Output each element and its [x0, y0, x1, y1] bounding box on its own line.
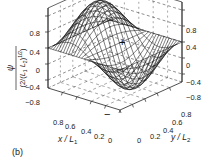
back-grid	[48, 0, 182, 106]
x-tick-0.4: 0.4	[81, 127, 91, 136]
x-tick-0.8: 0.8	[53, 118, 63, 127]
wavefunction-surface	[48, 0, 182, 89]
z-tick-left-neg0.8: −0.8	[25, 98, 40, 107]
plus-annotation: +	[119, 36, 125, 48]
panel-label: (b)	[12, 147, 23, 157]
y-tick-0.8: 0.8	[181, 110, 191, 119]
x-axis-label: x / L1	[57, 134, 78, 145]
z-tick-left-0.8: 0.8	[30, 29, 40, 38]
y-tick-0.6: 0.6	[172, 118, 182, 127]
z-tick-right-neg0.4: −0.4	[186, 78, 201, 87]
y-tick-0.2: 0.2	[150, 132, 160, 141]
z-axis-label-denominator: (2/(L1 L2)1/2)	[17, 48, 28, 88]
z-tick-right-0: 0	[186, 61, 190, 70]
z-axis-label: ψ (2/(L1 L2)1/2)	[5, 46, 28, 90]
surface-plot: 0.8 0.4 0 −0.4 −0.8 0.8 0.4 0 −0.4 −0.8 …	[0, 0, 209, 162]
z-tick-right-neg0.8: −0.8	[186, 93, 201, 102]
z-tick-left-0: 0	[36, 66, 40, 75]
z-tick-right-0.8: 0.8	[186, 26, 196, 35]
x-tick-0.6: 0.6	[65, 122, 75, 131]
minus-annotation: −	[104, 108, 110, 120]
z-tick-left-0.4: 0.4	[30, 48, 40, 57]
x-tick-0.2: 0.2	[94, 132, 104, 141]
svg-text:ψ: ψ	[5, 65, 15, 71]
y-tick-0: 0	[137, 136, 141, 145]
x-tick-0: 0	[108, 136, 112, 145]
z-tick-right-0.4: 0.4	[186, 43, 196, 52]
y-axis-label: y / L2	[170, 132, 191, 143]
z-tick-left-neg0.4: −0.4	[25, 83, 40, 92]
